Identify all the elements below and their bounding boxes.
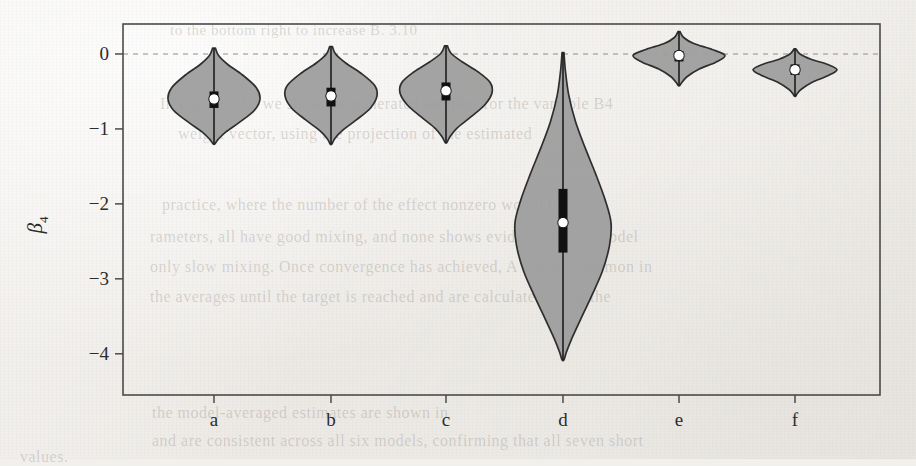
violin-series-group: [168, 31, 837, 360]
x-tick-label-c: c: [442, 409, 450, 430]
y-tick-label-3: −3: [89, 268, 109, 289]
violin-a[interactable]: [168, 48, 260, 145]
violin-median-marker-f: [790, 65, 800, 75]
y-axis-title-group: β4: [23, 216, 51, 234]
violin-d[interactable]: [515, 52, 612, 360]
violin-f[interactable]: [753, 49, 837, 97]
y-axis-title-subscript: 4: [36, 216, 51, 223]
x-tick-label-f: f: [792, 409, 799, 430]
x-tick-label-d: d: [558, 409, 568, 430]
x-tick-label-e: e: [675, 409, 683, 430]
violin-e[interactable]: [633, 31, 725, 85]
y-tick-label-2: −2: [89, 193, 109, 214]
violin-median-marker-a: [209, 94, 219, 104]
x-tick-label-b: b: [326, 409, 336, 430]
y-axis-title: β4: [23, 216, 51, 234]
y-axis-title-base: β: [23, 222, 47, 234]
violin-c[interactable]: [400, 46, 493, 143]
y-tick-label-4: −4: [89, 343, 110, 364]
violin-median-marker-d: [558, 217, 568, 227]
violin-b[interactable]: [285, 46, 378, 144]
violin-median-marker-e: [674, 50, 684, 60]
x-tick-label-a: a: [210, 409, 219, 430]
y-tick-label-1: −1: [89, 118, 109, 139]
y-tick-label-0: 0: [100, 43, 110, 64]
violin-median-marker-b: [326, 91, 336, 101]
violin-median-marker-c: [441, 86, 451, 96]
